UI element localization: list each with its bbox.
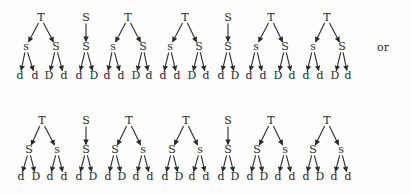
tree: TSdDsdd bbox=[161, 114, 209, 183]
tree-root-node: T bbox=[124, 11, 132, 24]
tree-inner-node: S bbox=[168, 143, 176, 156]
tree-leaf-node: D bbox=[132, 69, 141, 82]
tree-inner-node: s bbox=[167, 40, 173, 53]
tree-leaf-node: d bbox=[274, 170, 281, 183]
tree-edge-arrow bbox=[257, 52, 261, 70]
tree-leaf-node: d bbox=[246, 170, 253, 183]
tree-leaf-node: d bbox=[145, 69, 152, 82]
tree-edge-arrow bbox=[200, 52, 204, 70]
tree-edge-arrow bbox=[116, 23, 126, 42]
tree-diagram: TsddSDdSSdDTsddSDdTsddSDdSSdDTsddSDdTsdd… bbox=[0, 0, 411, 194]
tree-inner-node: S bbox=[111, 143, 119, 156]
tree-edge-arrow bbox=[314, 52, 318, 70]
tree-leaf-node: D bbox=[331, 69, 340, 82]
tree-inner-node: s bbox=[23, 40, 29, 53]
tree-leaf-node: d bbox=[288, 69, 295, 82]
tree-leaf-node: D bbox=[231, 170, 240, 183]
tree-edge-arrow bbox=[336, 52, 340, 70]
tree-edge-arrow bbox=[45, 126, 55, 145]
tree-leaf-node: d bbox=[16, 69, 23, 82]
tree-leaf-node: d bbox=[117, 69, 124, 82]
tree-inner-node: s bbox=[110, 40, 116, 53]
tree: TSdDsdd bbox=[104, 114, 153, 183]
tree-inner-node: S bbox=[139, 40, 147, 53]
tree-inner-node: S bbox=[25, 143, 33, 156]
trees-layer: TsddSDdSSdDTsddSDdTsddSDdSSdDTsddSDdTsdd… bbox=[16, 11, 351, 183]
tree-inner-node: s bbox=[338, 143, 344, 156]
tree-leaf-node: D bbox=[118, 170, 127, 183]
tree: TsddSDd bbox=[245, 11, 295, 82]
tree-leaf-node: d bbox=[202, 170, 209, 183]
tree-leaf-node: D bbox=[32, 170, 41, 183]
tree-root-node: S bbox=[82, 11, 90, 24]
tree-root-node: S bbox=[82, 114, 90, 127]
tree-edge-arrow bbox=[137, 52, 141, 70]
tree-leaf-node: D bbox=[45, 69, 54, 82]
tree-edge-arrow bbox=[279, 52, 283, 70]
tree-edge-arrow bbox=[229, 52, 233, 70]
tree-inner-node: s bbox=[310, 40, 316, 53]
tree-leaf-node: d bbox=[259, 69, 266, 82]
tree: TsddSDd bbox=[16, 11, 67, 82]
tree-edge-arrow bbox=[164, 52, 168, 70]
tree-leaf-node: d bbox=[31, 69, 38, 82]
tree-leaf-node: d bbox=[188, 170, 195, 183]
tree-inner-node: S bbox=[224, 40, 232, 53]
tree-inner-node: S bbox=[195, 40, 203, 53]
tree-leaf-node: d bbox=[161, 170, 168, 183]
tree-leaf-node: d bbox=[60, 69, 67, 82]
tree: TSdDsdd bbox=[17, 114, 67, 183]
tree-inner-node: S bbox=[82, 143, 90, 156]
tree-root-node: T bbox=[182, 114, 190, 127]
tree-leaf-node: d bbox=[75, 69, 82, 82]
tree: SSdD bbox=[75, 114, 97, 183]
tree-leaf-node: d bbox=[302, 170, 309, 183]
tree-inner-node: s bbox=[253, 40, 259, 53]
tree-inner-node: s bbox=[282, 143, 288, 156]
tree-leaf-node: d bbox=[173, 69, 180, 82]
tree-leaf-node: d bbox=[316, 69, 323, 82]
tree-leaf-node: d bbox=[330, 170, 337, 183]
tree-leaf-node: D bbox=[89, 170, 98, 183]
tree-leaf-node: D bbox=[274, 69, 283, 82]
tree-leaf-node: d bbox=[344, 170, 351, 183]
tree: SSdD bbox=[217, 11, 239, 82]
tree-leaf-node: d bbox=[17, 170, 24, 183]
tree-leaf-node: d bbox=[288, 170, 295, 183]
tree-inner-node: S bbox=[338, 40, 346, 53]
tree-root-node: T bbox=[267, 11, 275, 24]
tree-inner-node: S bbox=[309, 143, 317, 156]
tree-leaf-node: d bbox=[75, 170, 82, 183]
tree-leaf-node: d bbox=[217, 170, 224, 183]
tree-edge-arrow bbox=[171, 52, 175, 70]
tree-root-node: T bbox=[323, 11, 331, 24]
tree-edge-arrow bbox=[29, 23, 39, 42]
tree-leaf-node: D bbox=[231, 69, 240, 82]
tree: TsddSDd bbox=[159, 11, 209, 82]
tree-leaf-node: d bbox=[104, 170, 111, 183]
tree-root-node: T bbox=[38, 114, 46, 127]
row-2: TSdDsddSSdDTSdDsddTSdDsddSSdDTSdDsddTSdD… bbox=[17, 114, 351, 183]
tree: TsddSDd bbox=[302, 11, 351, 82]
tree-inner-node: S bbox=[52, 40, 60, 53]
tree-edge-arrow bbox=[21, 52, 25, 70]
tree-edge-arrow bbox=[28, 52, 34, 70]
tree-root-node: T bbox=[181, 11, 189, 24]
tree-edge-arrow bbox=[50, 52, 54, 70]
tree-leaf-node: d bbox=[202, 69, 209, 82]
tree: TSdDsdd bbox=[246, 114, 295, 183]
tree-edge-arrow bbox=[286, 52, 290, 70]
tree-leaf-node: d bbox=[217, 69, 224, 82]
tree-inner-node: S bbox=[82, 40, 90, 53]
tree-leaf-node: D bbox=[260, 170, 269, 183]
tree-inner-node: s bbox=[197, 143, 203, 156]
tree-leaf-node: D bbox=[175, 170, 184, 183]
tree-leaf-node: D bbox=[188, 69, 197, 82]
tree-root-node: T bbox=[125, 114, 133, 127]
tree: TSdDsdd bbox=[302, 114, 351, 183]
tree-edge-arrow bbox=[222, 52, 226, 70]
tree-root-node: T bbox=[267, 114, 275, 127]
tree-leaf-node: d bbox=[344, 69, 351, 82]
tree-leaf-node: d bbox=[60, 170, 67, 183]
tree-leaf-node: d bbox=[132, 170, 139, 183]
